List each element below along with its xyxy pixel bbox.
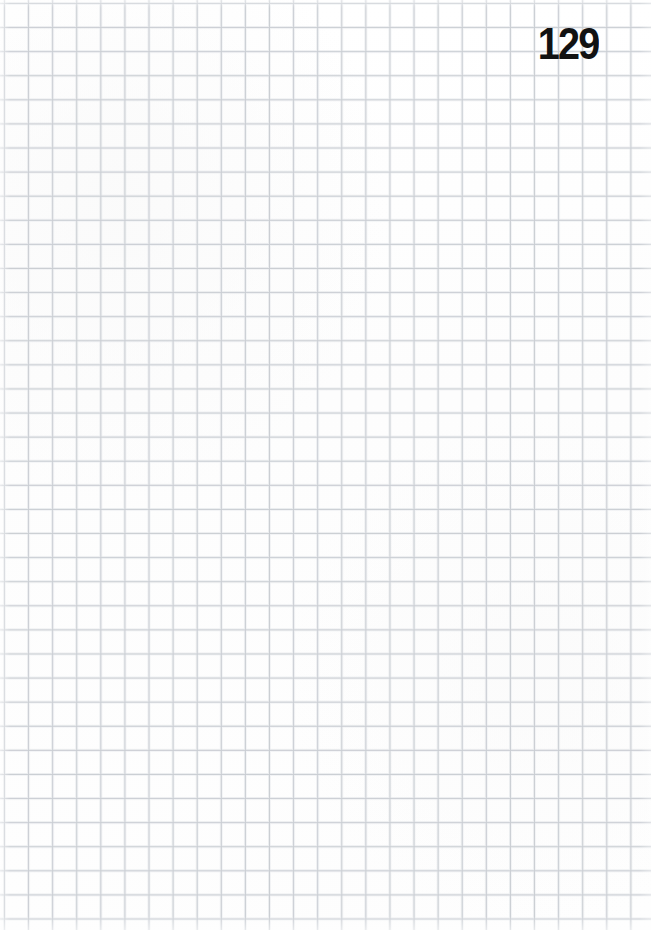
scan-edge-vignette [0, 0, 651, 930]
paper-background [0, 0, 651, 930]
grid-halo-lines [0, 0, 651, 930]
grid-secondary-lines [0, 0, 651, 930]
grid-primary-lines [0, 0, 651, 930]
page-number: 129 [537, 22, 598, 66]
grid-paper-ruling [0, 0, 651, 930]
page-canvas: 129 [0, 0, 651, 930]
